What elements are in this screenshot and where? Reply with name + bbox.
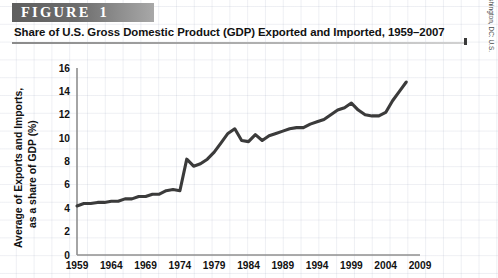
y-tick-label: 10 [59, 133, 71, 144]
line-chart: Average of Exports and Imports, as a sha… [0, 48, 450, 278]
x-tick-label: 1999 [340, 260, 363, 271]
source-rest: (Washington, DC: U.S. Government Printin… [479, 0, 495, 52]
x-tick-label: 1994 [306, 260, 329, 271]
subtitle-divider-endcap [464, 38, 467, 45]
y-tick-label: 4 [64, 203, 70, 214]
y-axis-title: Average of Exports and Imports, as a sha… [13, 88, 38, 248]
source-note: SOURCE: Economic Report of the President… [478, 0, 496, 62]
subtitle-divider [12, 42, 467, 44]
x-tick-label: 1984 [237, 260, 260, 271]
figure-root: FIGURE1 Share of U.S. Gross Domestic Pro… [0, 0, 498, 278]
figure-banner: FIGURE1 [12, 3, 154, 22]
data-series-line [77, 82, 406, 206]
y-tick-label: 0 [64, 250, 70, 261]
y-tick-label: 6 [64, 179, 70, 190]
y-tick-label: 8 [64, 156, 70, 167]
x-tick-label: 2009 [409, 260, 432, 271]
x-tick-label: 1974 [169, 260, 192, 271]
x-tick-label: 1964 [100, 260, 123, 271]
x-tick-label: 2004 [374, 260, 397, 271]
x-tick-label: 1969 [134, 260, 157, 271]
x-tick-label: 1989 [271, 260, 294, 271]
chart-canvas: Average of Exports and Imports, as a sha… [0, 48, 450, 278]
y-tick-label: 14 [59, 86, 71, 97]
y-axis-title-line2: as a share of GDP (%) [27, 120, 38, 228]
y-tick-label: 2 [64, 226, 70, 237]
figure-subtitle: Share of U.S. Gross Domestic Product (GD… [14, 26, 474, 38]
y-axis-tick-labels: 16 14 12 10 8 6 4 2 0 [59, 63, 71, 261]
figure-banner-label: FIGURE [21, 4, 91, 20]
y-tick-label: 16 [59, 63, 71, 74]
x-axis-tick-labels: 1959 1964 1969 1974 1979 1984 1989 1994 … [66, 260, 432, 271]
y-axis-title-line1: Average of Exports and Imports, [13, 88, 24, 248]
figure-banner-number: 1 [100, 4, 109, 20]
x-tick-label: 1979 [203, 260, 226, 271]
x-tick-label: 1959 [66, 260, 89, 271]
y-tick-label: 12 [59, 109, 71, 120]
